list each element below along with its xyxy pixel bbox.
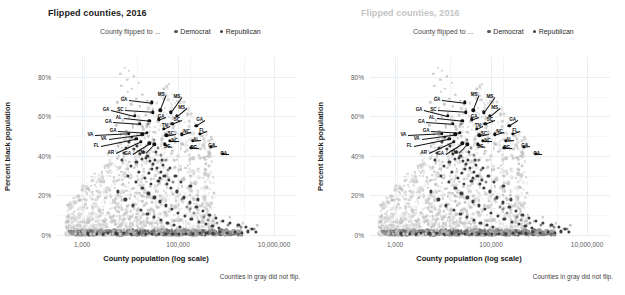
scatter-point-no-flip [81,188,83,190]
scatter-point-republican [148,171,151,174]
scatter-point-no-flip [456,137,459,140]
scatter-point-no-flip [204,186,207,189]
scatter-point-no-flip [479,186,481,188]
scatter-point-no-flip [452,223,455,226]
scatter-point-no-flip [458,202,460,204]
scatter-point-no-flip [448,224,451,227]
scatter-point-no-flip [91,198,94,201]
scatter-point-counties-in-gray-did-not-flip [128,70,130,72]
scatter-point-republican [244,225,247,228]
scatter-point-counties-in-gray-did-not-flip [458,180,460,182]
annotation-label-ga: GA [196,117,203,122]
annotation-label-fl: FL [199,127,204,132]
annotation-label-ms: MS [158,92,165,97]
scatter-point-no-flip [209,181,212,184]
scatter-point-no-flip [166,195,168,197]
scatter-point-no-flip [425,198,428,201]
scatter-point-no-flip [199,157,202,160]
scatter-point-no-flip [388,201,391,204]
scatter-point-no-flip [449,175,451,177]
scatter-point-no-flip [417,203,419,205]
scatter-point-no-flip [162,217,164,219]
scatter-point-counties-in-gray-did-not-flip [442,197,444,199]
scatter-point-counties-in-gray-did-not-flip [124,67,126,69]
scatter-point-counties-in-gray-did-not-flip [115,124,117,126]
scatter-point-no-flip [429,220,433,224]
scatter-point-democrat [147,123,150,126]
legend-entry-republican[interactable]: Republican [220,28,261,35]
scatter-point-no-flip [465,151,467,153]
scatter-point-counties-in-gray-did-not-flip [437,67,439,69]
scatter-point-counties-in-gray-did-not-flip [116,101,118,103]
legend-entry-democrat[interactable]: Democrat [174,28,210,35]
annotation-label-nc: NC [484,137,490,142]
legend-label-democrat: Democrat [493,28,523,35]
scatter-point-no-flip [112,214,115,217]
scatter-point-no-flip [86,193,88,195]
scatter-point-no-flip [124,143,126,145]
scatter-point-no-flip [109,175,111,177]
scatter-point-republican [541,222,544,225]
scatter-point-no-flip [101,202,103,204]
scatter-point-no-flip [422,165,424,167]
scatter-point-no-flip [163,152,165,154]
scatter-point-democrat [216,222,219,225]
scatter-point-no-flip [104,197,106,199]
scatter-point-democrat [164,158,167,161]
scatter-point-no-flip [497,167,499,169]
scatter-point-no-flip [391,198,394,201]
scatter-point-no-flip [110,172,112,174]
scatter-point-no-flip [120,196,123,199]
scatter-point-no-flip [107,220,109,222]
scatter-point-no-flip [396,198,398,200]
annotation-label-ms: MS [173,94,180,99]
scatter-point-no-flip [476,152,478,154]
legend-entry-republican[interactable]: Republican [533,28,574,35]
annotation-label-sc: SC [168,130,174,135]
scatter-point-republican [477,204,480,207]
scatter-point-no-flip [485,151,487,153]
scatter-point-democrat [192,212,195,215]
scatter-point-no-flip [517,158,520,161]
footnote-left: Counties in gray did not flip. [220,273,300,280]
scatter-point-democrat [472,153,475,156]
scatter-point-counties-in-gray-did-not-flip [129,197,131,199]
scatter-point-no-flip [185,144,188,147]
scatter-point-no-flip [475,166,479,170]
scatter-point-republican [450,170,453,173]
plot-area-right: GAGAMSMSMSSCALGAGASCGATNGAVASCNCVAFLFLNC… [370,57,610,235]
scatter-point-republican [472,170,475,173]
scatter-point-counties-in-gray-did-not-flip [141,93,143,95]
scatter-point-democrat [501,208,504,211]
annotation-target-point [151,110,154,113]
scatter-point-counties-in-gray-did-not-flip [229,216,231,218]
scatter-point-democrat [207,219,210,222]
annotation-leader-line [442,100,465,104]
scatter-point-no-flip [191,115,194,118]
annotation-target-point [464,110,467,113]
scatter-point-baseline [467,231,469,233]
scatter-point-no-flip [509,183,511,185]
scatter-point-no-flip [83,198,85,200]
annotation-leader-line [129,100,152,104]
scatter-point-no-flip [470,128,473,131]
chart-panel-left: Flipped counties, 2016 County flipped to… [0,0,312,295]
scatter-point-no-flip [438,208,440,210]
scatter-point-no-flip [423,172,425,174]
scatter-point-no-flip [512,147,515,150]
scatter-point-no-flip [429,215,431,217]
scatter-point-no-flip [181,186,183,188]
scatter-point-counties-in-gray-did-not-flip [454,93,456,95]
scatter-point-no-flip [504,115,507,118]
scatter-point-no-flip [489,195,492,198]
scatter-point-counties-in-gray-did-not-flip [120,84,122,86]
legend-entry-democrat[interactable]: Democrat [487,28,523,35]
scatter-point-no-flip [196,183,198,185]
annotation-label-nc: NC [171,137,177,142]
scatter-point-no-flip [517,180,520,183]
scatter-point-democrat [477,158,480,161]
scatter-point-no-flip [486,205,490,209]
scatter-point-republican [150,167,153,170]
scatter-point-republican [136,144,139,147]
scatter-point-republican [149,182,152,185]
